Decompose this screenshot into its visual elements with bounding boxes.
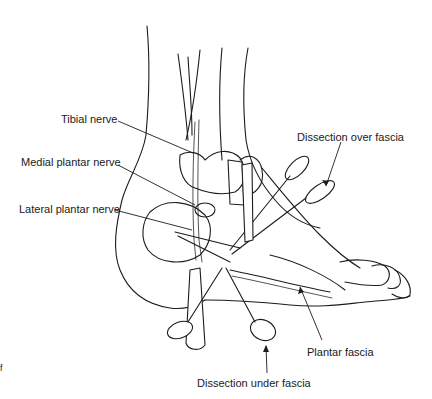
blade-2	[178, 236, 230, 262]
leg-outline-posterior	[116, 26, 205, 309]
leader-medial-plantar-nerve	[118, 165, 195, 205]
tibia-line-1	[178, 54, 188, 140]
tibial-nerve-strand-2	[198, 120, 202, 262]
plantar-fascia-line	[230, 270, 330, 292]
fibula-line	[220, 48, 222, 160]
stray-mark: f	[0, 362, 3, 374]
leader-tibial-nerve	[118, 121, 193, 153]
anatomical-figure: Tibial nerve Medial plantar nerve Latera…	[0, 0, 432, 399]
retractor	[242, 163, 253, 242]
metatarsal-1	[270, 255, 345, 290]
toe-phalanx-2	[372, 265, 400, 289]
forceps-ring-lower-2	[247, 315, 279, 344]
toe-phalanx-1	[340, 260, 389, 286]
forceps-ring-upper-2	[302, 177, 338, 208]
forceps-shaft-upper-1	[230, 176, 290, 250]
retractor-lower	[186, 268, 205, 349]
tibial-nerve-strand	[193, 122, 196, 260]
label-dissection-over-fascia: Dissection over fascia	[297, 131, 404, 143]
foot-line-drawing	[0, 0, 432, 399]
leader-dissection-over-fascia	[326, 142, 341, 186]
leader-lateral-plantar-nerve	[115, 210, 192, 230]
toe-tip	[392, 270, 410, 298]
label-dissection-under-fascia: Dissection under fascia	[197, 377, 311, 389]
midfoot-dorsum	[262, 168, 360, 268]
forceps-ring-upper-1	[281, 152, 312, 183]
plantar-fascia-line-2	[232, 276, 332, 298]
arrowhead-under-fascia	[263, 345, 269, 352]
talus-bone	[180, 151, 245, 193]
label-medial-plantar-nerve: Medial plantar nerve	[21, 156, 121, 168]
forceps-shaft-lower-2	[226, 268, 255, 322]
label-plantar-fascia: Plantar fascia	[307, 346, 374, 358]
label-lateral-plantar-nerve: Lateral plantar nerve	[19, 203, 120, 215]
blade-1	[175, 232, 240, 248]
label-tibial-nerve: Tibial nerve	[61, 113, 117, 125]
